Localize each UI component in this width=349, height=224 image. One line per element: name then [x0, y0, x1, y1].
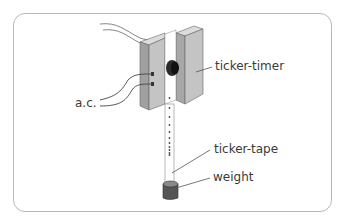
- weight-mass: [163, 181, 178, 200]
- label-ticker-timer: ticker-timer: [215, 60, 284, 72]
- timer-block-right: [176, 26, 203, 104]
- label-weight: weight: [213, 171, 253, 183]
- ticker-tape: [165, 30, 176, 184]
- timer-block-left: [140, 33, 165, 110]
- label-ticker-tape: ticker-tape: [214, 143, 278, 155]
- ticker-timer-apparatus: [0, 0, 349, 224]
- label-ac: a.c.: [75, 97, 97, 109]
